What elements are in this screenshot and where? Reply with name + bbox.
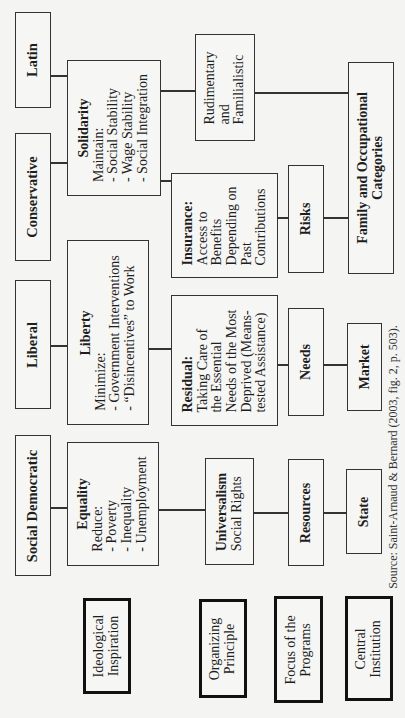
family-line: Family and Occupational bbox=[356, 92, 371, 244]
legend-line: Organizing bbox=[208, 617, 223, 680]
connector bbox=[254, 512, 288, 514]
insurance-title: Insurance: bbox=[180, 186, 195, 265]
focus-risks-label: Risks bbox=[299, 203, 314, 236]
institution-market: Market bbox=[347, 323, 382, 411]
legend-line: Principle bbox=[223, 617, 238, 680]
family-line: Categories bbox=[371, 92, 386, 244]
institution-market-label: Market bbox=[357, 344, 372, 389]
institution-state: State bbox=[346, 469, 382, 554]
residual-line: the Essential bbox=[210, 309, 225, 412]
regime-conservative-label: Conservative bbox=[25, 156, 40, 237]
liberty-title: Liberty bbox=[79, 255, 94, 411]
regime-latin: Latin bbox=[15, 12, 51, 108]
connector bbox=[51, 345, 67, 347]
universalism-line: Social Rights bbox=[230, 472, 245, 551]
connector bbox=[324, 217, 348, 219]
legend-line: Central bbox=[354, 620, 369, 678]
connector bbox=[161, 180, 171, 182]
insurance-line: Depending on bbox=[225, 186, 240, 265]
legend-line: Programs bbox=[299, 615, 314, 684]
insurance-line: Past bbox=[239, 186, 254, 265]
residual-title: Residual: bbox=[180, 309, 195, 412]
ideology-liberty: Liberty Minimize: - Government Intervent… bbox=[67, 240, 149, 425]
regime-social-democratic: Social Democratic bbox=[15, 435, 51, 576]
legend-focus-of-programs: Focus of the Programs bbox=[274, 596, 323, 703]
legend-organizing-principle: Organizing Principle bbox=[199, 599, 247, 698]
liberty-line: Minimize: bbox=[93, 255, 108, 411]
universalism-title: Universalism bbox=[215, 472, 230, 551]
connector bbox=[323, 512, 346, 514]
legend-line: Inspiration bbox=[107, 615, 122, 678]
equality-line: Reduce: bbox=[91, 456, 106, 551]
regime-latin-label: Latin bbox=[25, 43, 40, 77]
equality-line: - Unemployment bbox=[135, 456, 150, 551]
principle-insurance: Insurance: Access to Benefits Depending … bbox=[171, 173, 278, 278]
rudimentary-line: and bbox=[218, 51, 233, 124]
residual-line: Deprived (Means- bbox=[239, 309, 254, 412]
solidarity-line: - Social Integration bbox=[136, 74, 151, 182]
legend-ideological-inspiration: Ideological Inspiration bbox=[83, 598, 131, 694]
legend-line: Focus of the bbox=[284, 615, 299, 684]
connector bbox=[149, 348, 171, 350]
regime-conservative: Conservative bbox=[15, 133, 51, 261]
equality-line: - Poverty bbox=[106, 456, 121, 551]
regime-liberal-label: Liberal bbox=[25, 322, 40, 368]
regime-liberal: Liberal bbox=[15, 280, 51, 409]
institution-state-label: State bbox=[357, 496, 372, 526]
equality-title: Equality bbox=[76, 456, 91, 551]
focus-resources: Resources bbox=[288, 459, 324, 566]
legend-central-institution: Central Institution bbox=[345, 596, 393, 701]
insurance-line: Access to bbox=[195, 186, 210, 265]
residual-line: Taking Care of bbox=[195, 309, 210, 412]
focus-risks: Risks bbox=[288, 165, 324, 273]
connector bbox=[51, 75, 67, 77]
legend-line: Institution bbox=[369, 620, 384, 678]
focus-needs-label: Needs bbox=[299, 344, 314, 380]
solidarity-title: Solidarity bbox=[77, 74, 92, 182]
connector bbox=[159, 509, 205, 511]
rudimentary-line: Familialistic bbox=[232, 51, 247, 124]
residual-line: Needs of the Most bbox=[225, 309, 240, 412]
connector bbox=[324, 364, 347, 366]
connector bbox=[255, 92, 348, 94]
connector bbox=[51, 507, 67, 509]
rudimentary-line: Rudimentary bbox=[203, 51, 218, 124]
legend-line: Ideological bbox=[92, 615, 107, 678]
principle-residual: Residual: Taking Care of the Essential N… bbox=[171, 295, 278, 426]
solidarity-line: - Social Stability bbox=[107, 74, 122, 182]
principle-universalism: Universalism Social Rights bbox=[205, 458, 254, 565]
liberty-line: - “Disincentives” to Work bbox=[123, 255, 138, 411]
connector bbox=[278, 364, 288, 366]
source-citation: Source: Saint-Arnaud & Bernard (2003, fi… bbox=[386, 325, 401, 589]
regime-social-democratic-label: Social Democratic bbox=[25, 449, 40, 561]
connector bbox=[51, 162, 67, 164]
insurance-line: Contributions bbox=[254, 186, 269, 265]
focus-needs: Needs bbox=[288, 308, 324, 416]
insurance-line: Benefits bbox=[210, 186, 225, 265]
residual-line: tested Assistance) bbox=[254, 309, 269, 412]
focus-resources-label: Resources bbox=[299, 482, 314, 542]
connector bbox=[278, 217, 288, 219]
equality-line: - Inequality bbox=[120, 456, 135, 551]
connector bbox=[161, 90, 195, 92]
solidarity-line: Maintain: bbox=[92, 74, 107, 182]
ideology-equality: Equality Reduce: - Poverty - Inequality … bbox=[67, 442, 159, 566]
liberty-line: - Government Interventions bbox=[108, 255, 123, 411]
ideology-solidarity: Solidarity Maintain: - Social Stability … bbox=[67, 60, 161, 196]
solidarity-line: - Wage Stability bbox=[121, 74, 136, 182]
institution-family: Family and Occupational Categories bbox=[348, 62, 394, 274]
principle-rudimentary: Rudimentary and Familialistic bbox=[195, 34, 255, 141]
